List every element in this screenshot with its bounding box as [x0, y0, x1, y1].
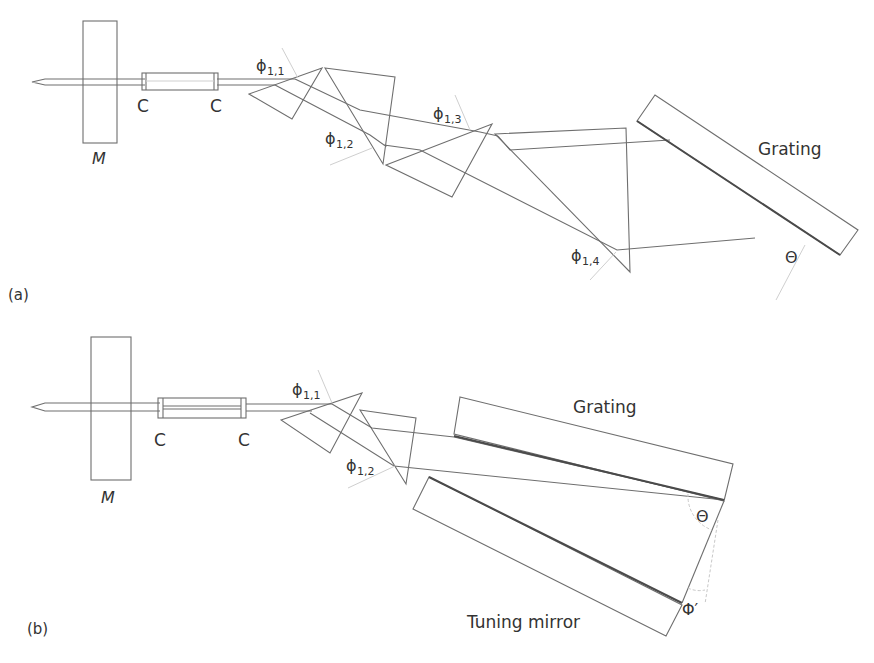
gain-cell: [142, 73, 218, 90]
theta-label-a: Θ: [785, 248, 798, 267]
grating-a: [637, 95, 858, 255]
svg-text:ϕ: ϕ: [325, 129, 336, 148]
svg-text:ϕ: ϕ: [433, 104, 444, 123]
theta-label-b: Θ: [696, 507, 709, 526]
svg-text:ϕ: ϕ: [292, 380, 303, 399]
phi-label-1-2: ϕ 1,2: [325, 129, 354, 151]
phi-label-1-4: ϕ 1,4: [571, 246, 600, 268]
output-mirror-b: [91, 337, 131, 480]
panel-a: (a) M C C ϕ 1,1 ϕ 1,2 ϕ 1,3 ϕ 1,4 Gratin…: [8, 21, 858, 304]
svg-text:ϕ: ϕ: [346, 456, 357, 475]
phi-label-b-1-1: ϕ 1,1: [292, 380, 321, 402]
svg-text:1,2: 1,2: [357, 465, 375, 478]
output-beam-b: [32, 403, 332, 411]
panel-label-b: (b): [27, 620, 48, 638]
coupler-label-b-2: C: [238, 430, 250, 450]
coupler-label-1: C: [137, 96, 149, 116]
phi-prime-label: Φ′: [682, 600, 699, 619]
svg-text:ϕ: ϕ: [256, 56, 267, 75]
phi-label-1-3: ϕ 1,3: [433, 104, 462, 126]
svg-text:1,1: 1,1: [303, 389, 321, 402]
output-mirror: [83, 21, 117, 143]
svg-text:1,1: 1,1: [267, 65, 285, 78]
phi-label-b-1-2: ϕ 1,2: [346, 456, 375, 478]
prism-3: [386, 124, 492, 197]
grating-label-a: Grating: [758, 139, 822, 159]
svg-text:ϕ: ϕ: [571, 246, 582, 265]
prism-b-1: [281, 393, 362, 453]
panel-b: (b) M C C ϕ 1,1 ϕ 1,2 Grating Θ Φ′ Tunin…: [27, 337, 733, 638]
grating-label-b: Grating: [573, 397, 637, 417]
svg-text:1,2: 1,2: [336, 138, 354, 151]
phi-label-1-1: ϕ 1,1: [256, 56, 285, 78]
tuning-mirror-label: Tuning mirror: [466, 612, 580, 632]
prism-1: [249, 68, 322, 119]
gain-cell-b: [158, 398, 246, 418]
output-beam: [32, 79, 295, 85]
mirror-label-b: M: [101, 488, 115, 507]
mirror-label: M: [92, 149, 106, 168]
svg-text:1,3: 1,3: [444, 113, 462, 126]
coupler-label-2: C: [210, 96, 222, 116]
coupler-label-b-1: C: [154, 430, 166, 450]
laser-cavity-diagram: (a) M C C ϕ 1,1 ϕ 1,2 ϕ 1,3 ϕ 1,4 Gratin…: [0, 0, 874, 663]
svg-text:1,4: 1,4: [582, 255, 600, 268]
panel-label-a: (a): [8, 286, 29, 304]
